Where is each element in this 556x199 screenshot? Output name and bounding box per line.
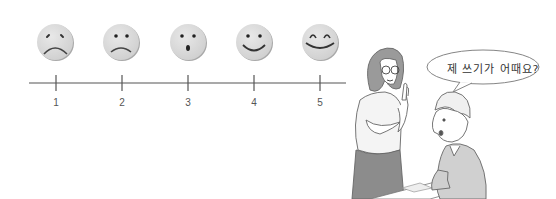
rating-scale: 1 2 3 4 5 bbox=[0, 0, 360, 199]
very-happy-face-icon bbox=[302, 24, 339, 61]
scale-label-2: 2 bbox=[112, 97, 132, 108]
happy-face-icon bbox=[236, 24, 273, 61]
student-figure bbox=[432, 92, 487, 199]
scale-label-5: 5 bbox=[310, 97, 330, 108]
surprised-face-icon bbox=[170, 24, 207, 61]
scale-label-3: 3 bbox=[178, 97, 198, 108]
scale-label-1: 1 bbox=[46, 97, 66, 108]
speech-bubble-text: 제 쓰기가 어때요? bbox=[443, 60, 543, 76]
teacher-figure bbox=[352, 48, 409, 199]
illustration: 제 쓰기가 어때요? bbox=[340, 0, 556, 199]
scale-label-4: 4 bbox=[244, 97, 264, 108]
sad-face-icon bbox=[103, 24, 140, 61]
very-sad-face-icon bbox=[37, 24, 74, 61]
